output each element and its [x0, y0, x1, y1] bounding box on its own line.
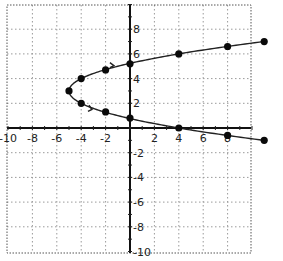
x-tick-label: -6 — [51, 132, 62, 145]
data-point — [224, 43, 231, 50]
y-tick-label: -10 — [133, 246, 151, 259]
x-tick-label: -10 — [0, 132, 17, 145]
x-tick-label: -8 — [27, 132, 38, 145]
x-tick-label: 6 — [200, 132, 207, 145]
y-tick-label: -6 — [133, 196, 144, 209]
x-tick-label: -4 — [76, 132, 87, 145]
data-point — [65, 87, 72, 94]
data-point — [224, 132, 231, 139]
y-tick-label: -2 — [133, 147, 144, 160]
axes — [7, 5, 252, 254]
tick-labels: -10-8-6-4-224688642-2-4-6-8-10 — [0, 23, 231, 258]
data-point — [126, 115, 133, 122]
data-point — [102, 66, 109, 73]
data-point — [175, 124, 182, 131]
x-tick-label: -2 — [100, 132, 111, 145]
data-point — [261, 38, 268, 45]
x-tick-label: 2 — [151, 132, 158, 145]
parabola-path — [69, 42, 264, 141]
data-point — [78, 100, 85, 107]
data-point — [102, 108, 109, 115]
y-tick-label: 6 — [133, 48, 140, 61]
data-point — [175, 50, 182, 57]
parabola-graph: -10-8-6-4-224688642-2-4-6-8-10 — [0, 0, 283, 261]
y-tick-label: -4 — [133, 171, 144, 184]
data-point — [261, 137, 268, 144]
y-tick-label: 2 — [133, 97, 140, 110]
y-tick-label: -8 — [133, 221, 144, 234]
data-point — [126, 60, 133, 67]
data-point — [78, 75, 85, 82]
x-tick-label: 4 — [175, 132, 182, 145]
y-tick-label: 8 — [133, 23, 140, 36]
parabola-curve — [69, 42, 264, 141]
y-tick-label: 4 — [133, 73, 140, 86]
